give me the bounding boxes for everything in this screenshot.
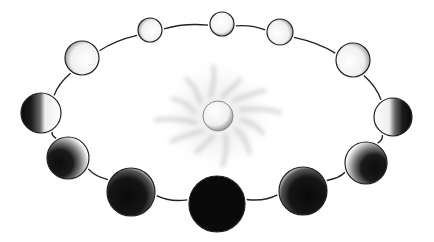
moon-full [210, 12, 234, 36]
moon-disc [138, 18, 162, 42]
moon-disc [345, 142, 387, 184]
orbit-segment [327, 172, 345, 180]
moon-disc [47, 137, 89, 179]
orbit-diagram-canvas [0, 0, 434, 242]
moon-waning-gibbous [267, 19, 293, 45]
moon-disc [374, 98, 412, 136]
orbit-segment [378, 135, 383, 143]
moon-first-quarter [21, 93, 61, 133]
moon-last-quarter [374, 98, 412, 136]
orbit-segment [164, 25, 208, 29]
moon-disc [267, 19, 293, 45]
moon-waxing-crescent [47, 137, 89, 179]
orbit-segment [364, 76, 381, 100]
moon-disc [210, 12, 234, 36]
moon-waxing-gibbous [65, 41, 99, 75]
moon-waning-crescent [345, 142, 387, 184]
moon-disc [279, 167, 327, 215]
moon-waning-gibbous [336, 43, 370, 77]
orbit-segment [100, 35, 137, 50]
moon-disc [107, 168, 155, 216]
sun-body [203, 101, 233, 131]
orbit-segment [294, 37, 335, 53]
orbit-segment [247, 195, 278, 200]
moon-phase-diagram [0, 0, 434, 242]
moon-disc [21, 93, 61, 133]
moon-waxing-crescent [107, 168, 155, 216]
orbit-segment [54, 73, 70, 95]
orbit-segment [52, 132, 56, 138]
orbit-segment [88, 169, 108, 180]
moon-waxing-gibbous [138, 18, 162, 42]
moon-disc [65, 41, 99, 75]
orbit-segment [157, 196, 188, 201]
moon-waning-crescent [279, 167, 327, 215]
moon-disc [189, 176, 245, 232]
moon-new [189, 176, 245, 232]
orbit-segment [236, 26, 265, 30]
sun [156, 58, 280, 174]
moon-disc [336, 43, 370, 77]
